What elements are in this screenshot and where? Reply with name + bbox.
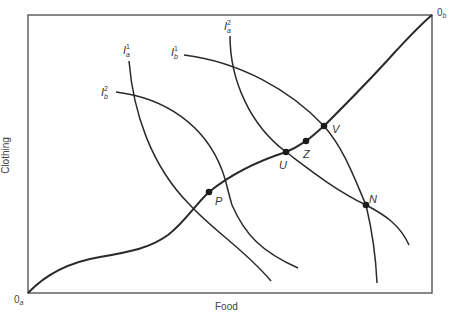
label-n: N bbox=[369, 194, 377, 205]
diagram-canvas bbox=[0, 0, 454, 319]
indifference-curve-ib2-arc bbox=[115, 92, 298, 268]
edgeworth-box-diagram: I1a I2a I1b I2b P U Z V N 0a 0b Food Clo… bbox=[0, 0, 454, 319]
label-z: Z bbox=[303, 149, 310, 160]
indifference-curve-ia1 bbox=[129, 61, 271, 281]
label-u: U bbox=[279, 160, 287, 171]
label-ib1: I1b bbox=[171, 47, 182, 58]
point-v bbox=[321, 123, 328, 130]
contract-curve bbox=[28, 15, 432, 293]
indifference-curve-ib2-line bbox=[115, 92, 298, 268]
indifference-curve-ib1-main bbox=[184, 55, 409, 245]
label-ib2: I2b bbox=[101, 87, 112, 98]
point-u bbox=[283, 149, 290, 156]
label-ia1: I1a bbox=[123, 45, 134, 56]
indifference-curve-ib1 bbox=[184, 55, 409, 245]
box-frame bbox=[28, 15, 432, 293]
label-ia2: I2a bbox=[224, 21, 235, 32]
origin-b-label: 0b bbox=[437, 7, 446, 18]
y-axis-title: Clothing bbox=[0, 137, 11, 174]
origin-a-label: 0a bbox=[14, 294, 23, 305]
label-p: P bbox=[215, 196, 222, 207]
label-v: V bbox=[332, 124, 339, 135]
point-p bbox=[206, 189, 213, 196]
x-axis-title: Food bbox=[215, 301, 238, 312]
indifference-curve-ib2-main bbox=[116, 92, 298, 268]
indifference-curve-ib2 bbox=[115, 92, 298, 268]
point-z bbox=[303, 138, 310, 145]
